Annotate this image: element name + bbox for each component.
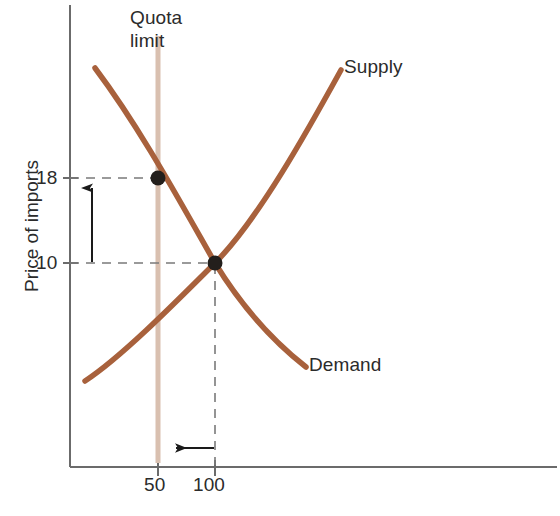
- quota-limit-label: Quotalimit: [130, 6, 182, 52]
- y-tick-label-18: 18: [36, 166, 57, 189]
- quota-limit-chart: Price of imports Quotalimit Supply Deman…: [0, 0, 560, 516]
- chart-plot-area: [0, 0, 560, 516]
- equilibrium-point: [208, 256, 223, 271]
- supply-curve-label: Supply: [344, 55, 403, 78]
- y-tick-label-10: 10: [36, 251, 57, 274]
- demand-curve: [95, 68, 306, 367]
- demand-curve-label: Demand: [309, 353, 381, 376]
- supply-curve: [85, 70, 341, 381]
- x-tick-label-50: 50: [144, 473, 165, 496]
- quota-limit-label-line1: Quota: [130, 7, 182, 28]
- quota-price-point: [151, 171, 166, 186]
- x-tick-label-100: 100: [193, 473, 225, 496]
- quota-limit-label-line2: limit: [130, 30, 164, 51]
